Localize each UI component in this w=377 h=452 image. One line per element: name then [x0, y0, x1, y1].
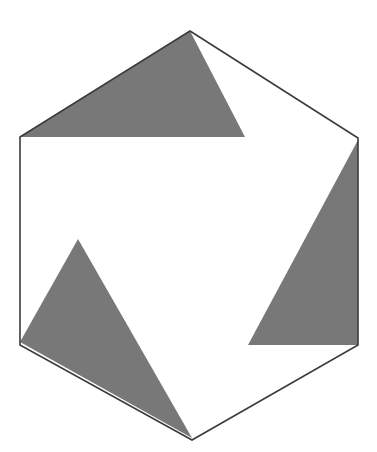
hexagon-pinwheel-figure [0, 0, 377, 452]
figure-container: g [0, 0, 377, 452]
